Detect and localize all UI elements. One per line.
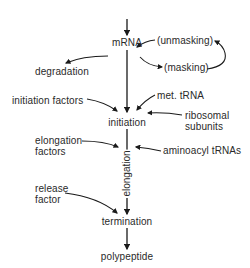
node-elongation: elongation [121,149,132,197]
node-unmasking: (unmasking) [157,35,213,46]
node-masking: (masking) [164,62,209,73]
node-release-factor-line1: release [35,183,69,194]
node-elongation-factors-line2: factors [35,146,66,157]
arrow-mrna-to-masking [140,57,162,67]
node-mrna: mRNA [112,37,142,48]
node-termination: termination [102,216,153,227]
node-degradation: degradation [35,66,89,77]
node-elongation-factors-line1: elongation [35,135,82,146]
node-met-trna: met. tRNA [157,90,204,101]
protein-synthesis-diagram: mRNA degradation (unmasking) (masking) i… [0,0,250,268]
node-ribosomal-line1: ribosomal [185,110,229,121]
arrow-met-trna-to-initiation [137,95,155,110]
arrow-aminoacyl-to-elongation [136,147,161,151]
node-release-factor-line2: factor [35,194,61,205]
arrow-release-factor-to-termination [65,193,117,213]
node-initiation: initiation [108,117,146,128]
arrow-initiation-factors-to-initiation [87,99,117,111]
arrow-elongation-factors-to-elongation [82,141,118,147]
node-ribosomal-line2: subunits [185,121,223,132]
arrow-ribosomal-to-initiation [148,113,182,115]
node-polypeptide: polypeptide [101,251,153,262]
node-initiation-factors: initiation factors [12,95,83,106]
node-aminoacyl-trnas: aminoacyl tRNAs [163,145,241,156]
arrow-mrna-to-degradation [66,56,108,63]
